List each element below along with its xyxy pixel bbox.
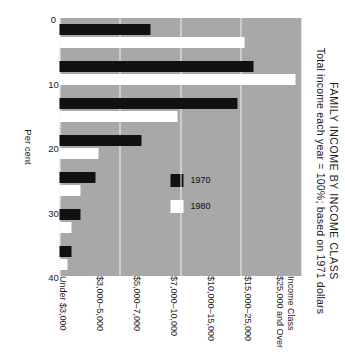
category-label: Under $3,000 — [56, 276, 67, 331]
bar-1970 — [59, 98, 237, 109]
value-axis: 010203040 — [39, 18, 57, 276]
category-label: Income Class$25,000 and Over — [273, 276, 295, 348]
category-label: $5,000–7,000 — [130, 276, 141, 331]
category-label: $15,000–25,000 — [241, 276, 252, 341]
chart-figure: FAMILY INCOME BY INCOME CLASS Total inco… — [0, 0, 345, 362]
bar-group — [59, 239, 301, 276]
bar-group — [59, 92, 301, 129]
bar-1970 — [59, 172, 95, 183]
bar-group — [59, 165, 301, 202]
bar-group — [59, 18, 301, 55]
category-label-text: $25,000 and Over — [273, 276, 284, 348]
chart-title-block: FAMILY INCOME BY INCOME CLASS Total inco… — [312, 0, 339, 362]
chart-subtitle: Total income each year = 100%; based on … — [312, 0, 325, 362]
bar-1970 — [59, 246, 71, 257]
value-tick-20: 20 — [48, 143, 59, 154]
bar-group — [59, 202, 301, 239]
value-tick-30: 30 — [48, 208, 59, 219]
bar-1980 — [59, 37, 244, 48]
bar-1970 — [59, 209, 80, 220]
bar-1970 — [59, 61, 253, 72]
category-label: $10,000–15,000 — [204, 276, 215, 341]
bar-1980 — [59, 148, 98, 159]
bar-1980 — [59, 259, 67, 270]
bar-1980 — [59, 111, 177, 122]
category-label: $3,000–5,000 — [93, 276, 104, 331]
category-axis: Income Class$25,000 and Over$15,000–25,0… — [59, 276, 301, 362]
plot-area: 1970 1980 — [59, 18, 301, 276]
bar-1980 — [59, 222, 71, 233]
category-label: $7,000–10,000 — [167, 276, 178, 336]
value-tick-10: 10 — [48, 79, 59, 90]
bar-1980 — [59, 74, 295, 85]
bar-1980 — [59, 185, 80, 196]
value-axis-title: Per cent — [22, 18, 33, 276]
bar-group — [59, 129, 301, 166]
value-tick-0: 0 — [50, 14, 55, 25]
bar-group — [59, 55, 301, 92]
bar-1970 — [59, 24, 150, 35]
chart-title: FAMILY INCOME BY INCOME CLASS — [326, 0, 339, 362]
bar-1970 — [59, 135, 141, 146]
category-axis-title: Income Class — [284, 276, 295, 348]
